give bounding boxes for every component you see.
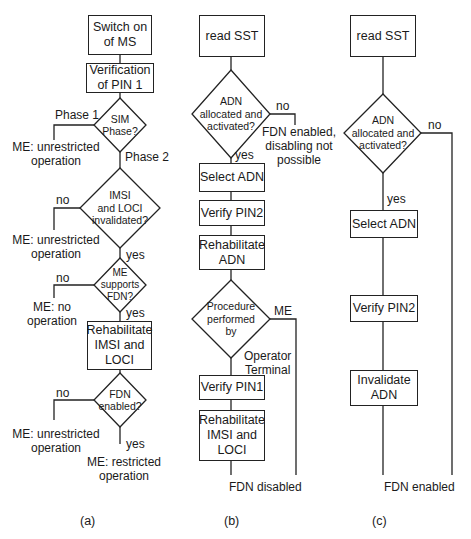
outcome-unrestricted-2: ME: unrestricted operation (10, 233, 102, 261)
decision-fdn-enabled: FDN enabled? (98, 386, 142, 414)
decision-adn-allocated-c: ADN allocated and activated? (348, 114, 418, 152)
label-phase2: Phase 2 (125, 150, 169, 164)
label-no-fdn-enabled: no (56, 386, 69, 400)
outcome-no-operation: ME: no operation (22, 300, 82, 328)
label-phase1: Phase 1 (55, 108, 99, 122)
process-verify-pin1-b: Verify PIN1 (199, 375, 265, 400)
process-verify-pin2-b: Verify PIN2 (199, 200, 265, 226)
caption-a: (a) (80, 514, 95, 528)
process-switch-on-ms: Switch on of MS (88, 15, 152, 55)
process-read-sst-b: read SST (199, 15, 265, 57)
label-me: ME (274, 304, 292, 318)
caption-b: (b) (224, 514, 239, 528)
label-no-imsi: no (56, 193, 69, 207)
label-operator-terminal: Operator Terminal (244, 349, 291, 377)
process-rehabilitate-imsi-loci: Rehabilitate IMSI and LOCI (87, 321, 152, 370)
process-rehabilitate-imsi-loci-b: Rehabilitate IMSI and LOCI (199, 410, 265, 461)
decision-me-supports-fdn: ME supports FDN? (98, 266, 142, 304)
outcome-unrestricted-1: ME: unrestricted operation (10, 140, 102, 168)
outcome-restricted: ME: restricted operation (78, 455, 170, 483)
label-yes-fdn-support: yes (126, 306, 145, 320)
decision-procedure-performed-by: Procedure performed by (202, 300, 260, 338)
label-no-c: no (428, 118, 441, 132)
process-rehabilitate-adn: Rehabilitate ADN (199, 235, 265, 270)
process-invalidate-adn: Invalidate ADN (350, 370, 418, 406)
outcome-fdn-enabled: FDN enabled (384, 480, 455, 494)
process-verify-pin2-c: Verify PIN2 (350, 295, 418, 322)
label-yes-b: yes (235, 148, 254, 162)
process-verify-pin1: Verification of PIN 1 (86, 63, 154, 93)
label-no-fdn-support: no (56, 271, 69, 285)
process-read-sst-c: read SST (350, 15, 416, 57)
decision-imsi-loci-invalidated: IMSI and LOCI invalidated? (88, 188, 152, 228)
label-yes-c: yes (387, 192, 406, 206)
label-yes-imsi: yes (126, 248, 145, 262)
outcome-fdn-disabled: FDN disabled (229, 480, 302, 494)
process-select-adn-c: Select ADN (350, 210, 418, 238)
label-no-b: no (276, 99, 289, 113)
process-select-adn-b: Select ADN (199, 163, 265, 192)
caption-c: (c) (372, 514, 387, 528)
decision-sim-phase: SIM Phase? (96, 110, 144, 140)
label-yes-fdn-enabled: yes (126, 437, 145, 451)
outcome-fdn-not-possible: FDN enabled, disabling not possible (256, 125, 342, 167)
outcome-unrestricted-3: ME: unrestricted operation (10, 427, 102, 455)
